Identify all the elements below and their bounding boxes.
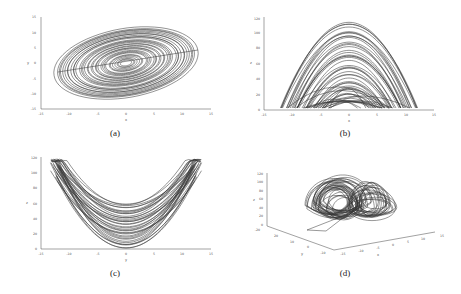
- svg-text:x: x: [377, 253, 380, 257]
- svg-text:0: 0: [35, 247, 37, 251]
- svg-text:120: 120: [254, 17, 260, 21]
- svg-text:0: 0: [258, 108, 260, 112]
- svg-text:0: 0: [34, 61, 36, 65]
- svg-text:80: 80: [256, 46, 260, 50]
- svg-text:z: z: [253, 198, 255, 202]
- svg-text:-20: -20: [255, 228, 260, 232]
- svg-text:120: 120: [257, 172, 263, 176]
- svg-text:x: x: [348, 119, 351, 123]
- svg-text:x: x: [125, 118, 128, 122]
- svg-text:-15: -15: [31, 107, 36, 111]
- svg-text:100: 100: [257, 180, 263, 184]
- svg-text:20: 20: [274, 234, 278, 238]
- svg-text:60: 60: [259, 197, 263, 201]
- svg-text:z: z: [26, 201, 28, 205]
- svg-text:y: y: [27, 61, 30, 65]
- xy-phase-plot: 15 10 5 0 -5 -10 -15 -15 -10 -5 0 5 10 1…: [0, 0, 230, 147]
- svg-text:20: 20: [259, 214, 263, 218]
- svg-text:15: 15: [209, 252, 213, 256]
- svg-text:0: 0: [261, 223, 263, 227]
- svg-text:5: 5: [153, 252, 155, 256]
- caption-c: (c): [0, 268, 230, 278]
- svg-text:20: 20: [256, 93, 260, 97]
- svg-text:15: 15: [209, 112, 213, 116]
- svg-text:10: 10: [32, 31, 36, 35]
- panel-d: 120 100 80 60 40 20 0 -20 20 10 0 -10 -1…: [230, 147, 460, 294]
- xz-phase-plot: 120 100 80 60 40 20 0 -15 -10 -5 0 5 10 …: [230, 0, 461, 147]
- svg-text:-5: -5: [33, 77, 36, 81]
- svg-text:80: 80: [259, 189, 263, 193]
- svg-text:-10: -10: [358, 249, 363, 253]
- svg-text:40: 40: [259, 206, 263, 210]
- svg-text:15: 15: [32, 15, 36, 19]
- svg-text:-5: -5: [319, 113, 322, 117]
- svg-text:10: 10: [421, 237, 425, 241]
- svg-text:20: 20: [33, 232, 37, 236]
- attractor-trajectory: [50, 159, 201, 248]
- svg-text:-15: -15: [38, 112, 43, 116]
- svg-text:60: 60: [33, 202, 37, 206]
- caption-d: (d): [230, 268, 460, 278]
- svg-text:100: 100: [254, 31, 260, 35]
- panel-b: 120 100 80 60 40 20 0 -15 -10 -5 0 5 10 …: [230, 0, 460, 147]
- svg-text:-15: -15: [340, 252, 345, 256]
- svg-text:-10: -10: [66, 112, 71, 116]
- svg-text:5: 5: [34, 46, 36, 50]
- svg-text:120: 120: [31, 156, 37, 160]
- panel-c: 120 100 80 60 40 20 0 -15 -10 -5 0 5 10 …: [0, 147, 230, 294]
- svg-text:-5: -5: [96, 112, 99, 116]
- svg-text:-5: -5: [96, 252, 99, 256]
- svg-text:0: 0: [125, 112, 127, 116]
- svg-text:0: 0: [125, 252, 127, 256]
- svg-text:0: 0: [348, 113, 350, 117]
- svg-text:5: 5: [376, 113, 378, 117]
- svg-text:y: y: [125, 258, 128, 262]
- svg-text:15: 15: [432, 113, 436, 117]
- svg-text:-5: -5: [376, 246, 379, 250]
- attractor-trajectory: [280, 22, 417, 108]
- svg-text:-15: -15: [261, 113, 266, 117]
- svg-text:z: z: [250, 61, 252, 65]
- attractor-trajectory: [54, 27, 198, 99]
- svg-text:-10: -10: [320, 251, 325, 255]
- svg-text:0: 0: [307, 245, 309, 249]
- svg-text:100: 100: [31, 171, 37, 175]
- svg-text:10: 10: [180, 112, 184, 116]
- svg-text:80: 80: [33, 186, 37, 190]
- svg-text:-10: -10: [31, 92, 36, 96]
- svg-text:60: 60: [256, 62, 260, 66]
- svg-text:10: 10: [290, 240, 294, 244]
- svg-text:40: 40: [256, 77, 260, 81]
- svg-text:10: 10: [180, 252, 184, 256]
- svg-text:y: y: [301, 252, 304, 256]
- svg-text:5: 5: [153, 112, 155, 116]
- svg-text:15: 15: [440, 234, 444, 238]
- panel-a: 15 10 5 0 -5 -10 -15 -15 -10 -5 0 5 10 1…: [0, 0, 230, 147]
- svg-text:10: 10: [404, 113, 408, 117]
- svg-text:-15: -15: [38, 252, 43, 256]
- svg-text:-10: -10: [289, 113, 294, 117]
- caption-b: (b): [230, 128, 460, 138]
- svg-text:-10: -10: [66, 252, 71, 256]
- attractor-trajectory: [305, 175, 397, 231]
- caption-a: (a): [0, 128, 230, 138]
- svg-text:5: 5: [407, 240, 409, 244]
- svg-text:0: 0: [392, 243, 394, 247]
- svg-text:40: 40: [33, 217, 37, 221]
